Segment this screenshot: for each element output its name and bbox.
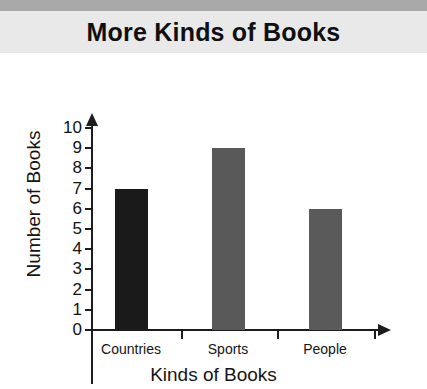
x-axis-label-people: People	[265, 341, 385, 357]
top-decorative-strip	[0, 0, 427, 11]
bar-people	[309, 209, 342, 330]
x-axis-title: Kinds of Books	[0, 364, 427, 386]
x-axis-tick	[277, 331, 279, 339]
x-axis-tick	[181, 331, 183, 339]
page-title: More Kinds of Books	[87, 18, 341, 47]
bar-sports	[212, 148, 245, 330]
bar-chart: 109876543210 CountriesSportsPeople Kinds…	[0, 53, 427, 389]
bar-countries	[115, 189, 148, 330]
bars-layer	[0, 53, 427, 330]
x-axis-tick	[374, 331, 376, 339]
title-banner: More Kinds of Books	[0, 11, 427, 53]
y-axis-title: Number of Books	[23, 104, 45, 304]
